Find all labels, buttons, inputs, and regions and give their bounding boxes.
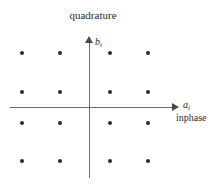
y-axis-label: bi [95,36,102,49]
vertical-axis-arrow-icon [85,36,93,43]
constellation-point [146,121,150,125]
x-axis-label: ai [183,99,190,112]
constellation-point [58,159,62,163]
constellation-point [146,90,150,94]
horizontal-axis-line [10,107,175,108]
constellation-point [58,51,62,55]
y-axis-label-subscript: i [100,41,102,49]
x-axis-sublabel: inphase [176,112,207,123]
vertical-axis-line [89,41,90,178]
constellation-point [108,90,112,94]
constellation-diagram: quadrature bi ai inphase [0,0,214,184]
horizontal-axis-arrow-icon [172,103,179,111]
constellation-point [20,51,24,55]
constellation-point [58,90,62,94]
constellation-point [146,159,150,163]
constellation-point [108,51,112,55]
constellation-point [146,51,150,55]
constellation-point [20,90,24,94]
constellation-point [108,121,112,125]
constellation-point [20,121,24,125]
constellation-point [108,159,112,163]
chart-title: quadrature [0,9,186,22]
constellation-point [58,121,62,125]
x-axis-label-subscript: i [188,104,190,112]
constellation-point [20,159,24,163]
